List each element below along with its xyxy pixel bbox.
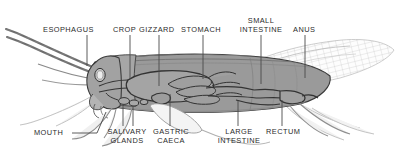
label-gastric-caeca-line2: CAECA bbox=[150, 137, 192, 146]
label-gizzard: GIZZARD bbox=[139, 26, 175, 35]
label-crop: CROP bbox=[113, 26, 136, 35]
label-small-intestine: SMALL INTESTINE bbox=[232, 17, 290, 35]
label-gastric-caeca: GASTRIC CAECA bbox=[150, 128, 192, 146]
label-small-intestine-line2: INTESTINE bbox=[232, 26, 290, 35]
insect-digestive-system-figure: ESOPHAGUS CROP GIZZARD STOMACH SMALL INT… bbox=[0, 0, 402, 162]
label-mouth: MOUTH bbox=[34, 129, 63, 138]
label-rectum: RECTUM bbox=[266, 128, 300, 137]
label-large-intestine-line2: INTESTINE bbox=[211, 137, 267, 146]
label-large-intestine: LARGE INTESTINE bbox=[211, 128, 267, 146]
label-salivary-glands-line2: GLANDS bbox=[99, 137, 155, 146]
head bbox=[87, 56, 122, 118]
label-stomach: STOMACH bbox=[181, 26, 221, 35]
label-anus: ANUS bbox=[293, 26, 315, 35]
label-salivary-glands: SALIVARY GLANDS bbox=[99, 128, 155, 146]
label-esophagus: ESOPHAGUS bbox=[43, 26, 94, 35]
